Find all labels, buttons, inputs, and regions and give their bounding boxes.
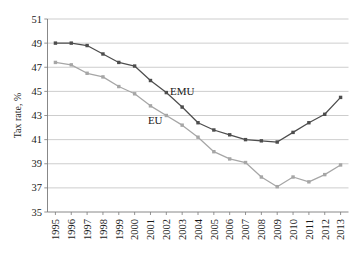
- data-point-eu-2007: [244, 161, 247, 164]
- data-point-eu-2003: [180, 123, 183, 126]
- chart-container: 353739414345474951 199519961997199819992…: [0, 0, 363, 258]
- x-tick-label: 2008: [256, 219, 267, 240]
- data-point-eu-2004: [196, 136, 199, 139]
- x-tick-label: 2004: [193, 218, 204, 240]
- series-label-emu: EMU: [170, 85, 195, 97]
- x-tick-label: 1997: [82, 219, 93, 240]
- y-tick-label: 39: [32, 158, 43, 169]
- data-point-eu-2000: [133, 92, 136, 95]
- data-point-emu-2000: [133, 64, 136, 67]
- data-point-emu-2011: [307, 121, 310, 124]
- data-point-emu-2001: [149, 79, 152, 82]
- data-point-eu-2013: [339, 163, 342, 166]
- y-tick-label: 47: [32, 62, 43, 73]
- x-tick-label: 2006: [224, 219, 235, 240]
- data-point-eu-2009: [276, 185, 279, 188]
- data-point-emu-2006: [228, 133, 231, 136]
- series-line-emu: [55, 43, 340, 142]
- line-chart: 353739414345474951 199519961997199819992…: [0, 0, 363, 258]
- y-axis-title: Tax rate, %: [12, 93, 23, 139]
- data-point-emu-2013: [339, 96, 342, 99]
- x-tick-label: 2007: [240, 219, 251, 240]
- y-tick-label: 45: [32, 86, 43, 97]
- y-tick-labels: 353739414345474951: [32, 14, 43, 218]
- x-tick-label: 2002: [161, 219, 172, 240]
- data-point-eu-2010: [291, 175, 294, 178]
- x-tick-label: 1999: [114, 219, 125, 240]
- x-tick-label: 2011: [304, 219, 315, 240]
- data-point-emu-2002: [165, 91, 168, 94]
- data-point-emu-2005: [212, 128, 215, 131]
- data-point-eu-1995: [54, 61, 57, 64]
- x-tick-label: 2001: [145, 219, 156, 240]
- y-axis-title-group: Tax rate, %: [12, 93, 23, 139]
- data-point-eu-2002: [165, 114, 168, 117]
- series-label-eu: EU: [148, 114, 163, 126]
- y-tick-label: 41: [32, 134, 43, 145]
- data-point-emu-1998: [101, 52, 104, 55]
- y-tick-label: 35: [32, 207, 43, 218]
- data-point-emu-1999: [117, 61, 120, 64]
- x-tick-label: 2010: [288, 219, 299, 240]
- y-tick-label: 43: [32, 110, 43, 121]
- gridlines-group: [48, 19, 349, 188]
- data-point-eu-2012: [323, 173, 326, 176]
- x-tick-label: 2013: [335, 219, 346, 240]
- data-point-eu-2006: [228, 157, 231, 160]
- x-tick-label: 1995: [50, 219, 61, 240]
- data-point-emu-1997: [85, 44, 88, 47]
- data-point-emu-2004: [196, 121, 199, 124]
- data-point-eu-2011: [307, 180, 310, 183]
- x-tick-label: 1996: [66, 219, 77, 240]
- x-tick-label: 2009: [272, 219, 283, 240]
- data-point-eu-1996: [70, 63, 73, 66]
- x-tick-label: 2005: [209, 219, 220, 240]
- data-point-emu-1995: [54, 41, 57, 44]
- data-point-eu-2008: [260, 175, 263, 178]
- data-point-eu-2001: [149, 104, 152, 107]
- data-point-emu-2007: [244, 138, 247, 141]
- data-point-eu-1998: [101, 75, 104, 78]
- data-series-group: [54, 41, 343, 188]
- x-tick-label: 1998: [98, 219, 109, 240]
- axis-group: [44, 19, 348, 215]
- data-point-emu-2008: [260, 139, 263, 142]
- series-line-eu: [55, 62, 340, 186]
- data-point-emu-2003: [180, 105, 183, 108]
- data-point-emu-1996: [70, 41, 73, 44]
- y-tick-label: 37: [32, 182, 43, 193]
- data-point-eu-1997: [85, 72, 88, 75]
- data-point-emu-2010: [291, 131, 294, 134]
- data-point-emu-2009: [276, 140, 279, 143]
- x-tick-label: 2000: [129, 219, 140, 240]
- x-tick-labels: 1995199619971998199920002001200220032004…: [50, 218, 346, 240]
- y-tick-label: 51: [32, 14, 43, 25]
- x-tick-label: 2003: [177, 219, 188, 240]
- data-point-emu-2012: [323, 113, 326, 116]
- x-tick-label: 2012: [320, 219, 331, 240]
- data-point-eu-2005: [212, 150, 215, 153]
- y-tick-label: 49: [32, 38, 43, 49]
- data-point-eu-1999: [117, 85, 120, 88]
